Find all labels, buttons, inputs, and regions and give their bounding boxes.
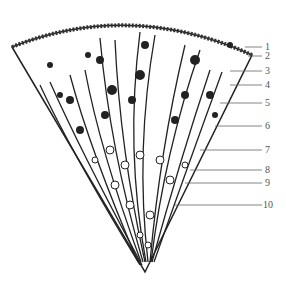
label-2: 2 bbox=[265, 51, 270, 61]
label-9: 9 bbox=[265, 178, 270, 188]
label-4: 4 bbox=[265, 80, 270, 90]
label-8: 8 bbox=[265, 165, 270, 175]
label-7: 7 bbox=[265, 145, 270, 155]
label-5: 5 bbox=[265, 98, 270, 108]
label-6: 6 bbox=[265, 121, 270, 131]
label-3: 3 bbox=[265, 66, 270, 76]
cone-section-diagram bbox=[0, 0, 286, 292]
label-10: 10 bbox=[263, 200, 273, 210]
